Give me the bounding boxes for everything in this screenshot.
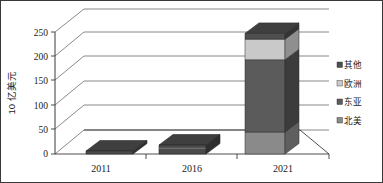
legend-swatch-icon-east-asia	[337, 99, 343, 105]
y-tick-label-0: 0	[43, 149, 48, 159]
legend-swatch-icon-europe	[337, 81, 343, 87]
bar-2021-segment-north-america	[245, 132, 285, 154]
legend-swatch-icon-other	[337, 62, 343, 68]
y-tick-label-200: 200	[34, 52, 49, 62]
x-tick-label-2016: 2016	[182, 163, 202, 174]
legend-label-north-america: 北美	[344, 115, 362, 126]
bar-2021-segment-other	[245, 33, 285, 39]
chart-container: 0 50 100 150 200 250 10 亿美元	[0, 0, 383, 183]
y-tick-label-100: 100	[34, 101, 49, 111]
bar-2021-segment-europe	[245, 39, 285, 60]
y-tick-label-250: 250	[34, 28, 49, 38]
legend-label-east-asia: 东亚	[344, 96, 362, 107]
bar-2021-segment-east-asia	[245, 60, 285, 132]
chart-frame	[1, 1, 383, 183]
y-tick-label-150: 150	[34, 76, 49, 86]
bar-2016-segment-divider	[159, 148, 206, 149]
y-axis-title: 10 亿美元	[6, 71, 17, 114]
bar-2011-front-face	[86, 151, 133, 154]
x-tick-label-2011: 2011	[91, 163, 111, 174]
x-tick-label-2021: 2021	[273, 163, 293, 174]
bar-2021-side-east-asia	[285, 49, 299, 132]
legend-swatch-icon-north-america	[337, 118, 343, 124]
y-tick-label-50: 50	[39, 125, 49, 135]
stacked-column-chart-3d: 0 50 100 150 200 250 10 亿美元	[0, 0, 383, 183]
legend-label-europe: 欧洲	[344, 78, 362, 89]
legend-label-other: 其他	[344, 59, 362, 70]
bar-2016-front-face	[159, 145, 206, 154]
bar-2021[interactable]	[245, 23, 299, 154]
